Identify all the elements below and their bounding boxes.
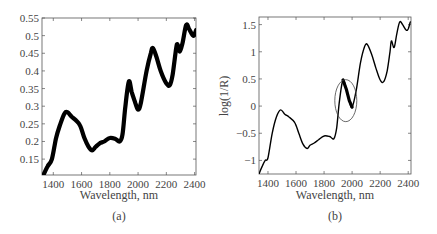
y-tick-label: 0.5 bbox=[242, 73, 256, 85]
data-line bbox=[43, 24, 196, 175]
y-tick-label: 0.15 bbox=[20, 153, 40, 165]
x-tick-label: 2400 bbox=[184, 178, 207, 190]
x-tick-label: 1400 bbox=[257, 177, 280, 189]
y-tick-label: 0.25 bbox=[20, 118, 40, 130]
y-tick-label: 0.3 bbox=[25, 100, 39, 112]
caption-a: (a) bbox=[112, 209, 125, 223]
y-tick-label: 0 bbox=[251, 100, 257, 112]
x-tick-label: 2400 bbox=[397, 177, 420, 189]
y-tick-label: −1 bbox=[244, 154, 256, 166]
chart-panel-a: 1400160018002000220024000.150.20.250.30.… bbox=[20, 12, 206, 223]
y-tick-label: 0.5 bbox=[25, 30, 39, 42]
figure: 1400160018002000220024000.150.20.250.30.… bbox=[0, 0, 437, 234]
plot-frame-a bbox=[42, 18, 196, 175]
y-tick-label: 0.4 bbox=[25, 65, 39, 77]
y-tick-label: 0.35 bbox=[20, 83, 40, 95]
x-axis-label-a: Wavelength, nm bbox=[80, 188, 159, 202]
highlighted-band bbox=[343, 80, 352, 107]
y-tick-label: 0.2 bbox=[25, 135, 39, 147]
y-tick-label: 1 bbox=[251, 46, 257, 58]
plot-area-b bbox=[259, 22, 410, 174]
x-axis-label-b: Wavelength, nm bbox=[296, 188, 375, 202]
x-tick-label: 2200 bbox=[155, 178, 178, 190]
y-tick-label: −0.5 bbox=[236, 127, 256, 139]
y-tick-label: 0.45 bbox=[20, 47, 40, 59]
caption-b: (b) bbox=[328, 209, 342, 223]
chart-panel-b: 140016001800200022002400−1−0.500.511.5 l… bbox=[217, 17, 420, 223]
y-axis-label-b: log(1/R) bbox=[217, 76, 231, 117]
y-tick-label: 1.5 bbox=[242, 19, 256, 31]
plot-area-a bbox=[43, 24, 196, 175]
y-tick-label: 0.55 bbox=[20, 12, 40, 24]
x-tick-label: 1400 bbox=[42, 178, 65, 190]
